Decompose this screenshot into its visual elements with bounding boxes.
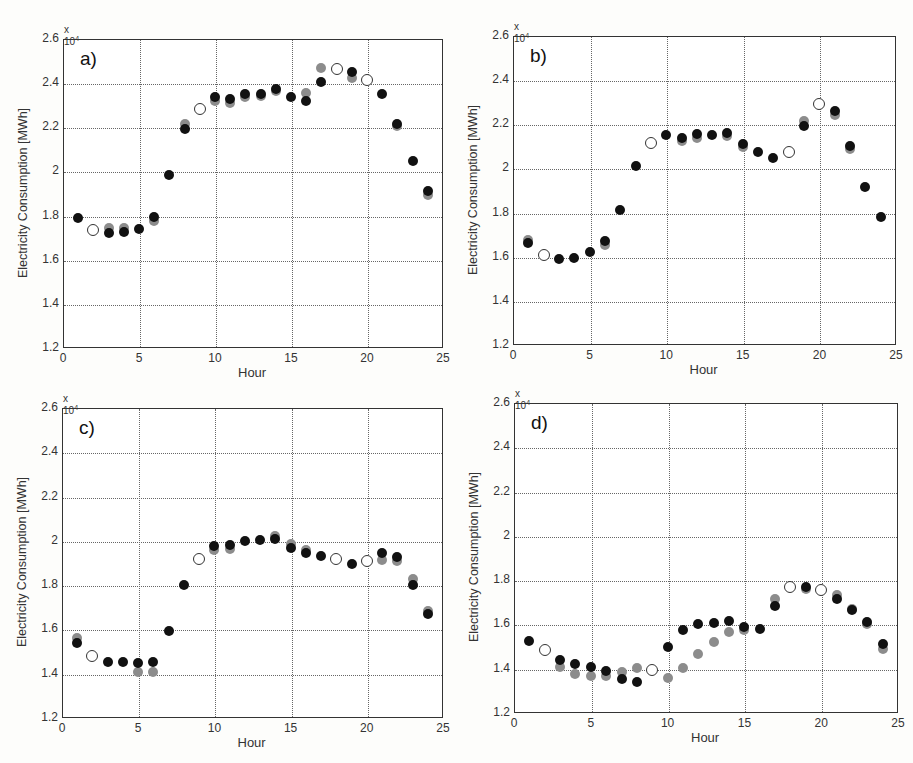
x-tick-label: 25 xyxy=(428,721,458,735)
y-axis-multiplier: x 104 xyxy=(63,393,78,416)
y-tick-label: 1.8 xyxy=(28,577,58,591)
data-point-black xyxy=(677,133,687,143)
gridline-vertical xyxy=(744,37,745,344)
gridline-horizontal xyxy=(64,305,442,306)
data-point-black xyxy=(72,638,82,648)
gridline-horizontal xyxy=(515,625,897,626)
data-point-black xyxy=(240,536,250,546)
data-point-gray xyxy=(678,663,688,673)
data-point-black xyxy=(523,238,533,248)
y-tick-label: 1.6 xyxy=(28,621,58,635)
data-point-black xyxy=(860,182,870,192)
data-point-black xyxy=(301,96,311,106)
data-point-open xyxy=(646,664,658,676)
data-point-black xyxy=(316,77,326,87)
data-point-black xyxy=(316,551,326,561)
gridline-horizontal xyxy=(514,302,895,303)
y-tick-label: 2.4 xyxy=(479,72,509,86)
data-point-black xyxy=(148,657,158,667)
data-point-gray xyxy=(663,673,673,683)
multiplier-exponent: 4 xyxy=(75,35,79,42)
data-point-open xyxy=(538,249,550,261)
data-point-black xyxy=(555,655,565,665)
data-point-black xyxy=(799,121,809,131)
data-point-open xyxy=(193,553,205,565)
x-axis-label: Hour xyxy=(238,365,266,380)
x-tick-label: 5 xyxy=(575,348,605,362)
data-point-black xyxy=(847,605,857,615)
data-point-open xyxy=(539,644,551,656)
y-tick-label: 1.4 xyxy=(479,293,509,307)
data-point-gray xyxy=(133,667,143,677)
data-point-black xyxy=(408,580,418,590)
gridline-vertical xyxy=(667,37,668,344)
data-point-gray xyxy=(316,63,326,73)
x-tick-label: 15 xyxy=(276,351,306,365)
data-point-black xyxy=(286,543,296,553)
data-point-black xyxy=(347,559,357,569)
data-point-open xyxy=(87,224,99,236)
y-tick-label: 2.2 xyxy=(480,484,510,498)
gridline-horizontal xyxy=(63,453,442,454)
gridline-horizontal xyxy=(514,81,895,82)
data-point-black xyxy=(377,548,387,558)
data-point-gray xyxy=(586,671,596,681)
gridline-horizontal xyxy=(515,493,897,494)
x-tick-label: 15 xyxy=(276,721,306,735)
x-tick-label: 25 xyxy=(881,348,911,362)
data-point-black xyxy=(271,84,281,94)
data-point-open xyxy=(813,98,825,110)
y-tick-label: 1.8 xyxy=(29,208,59,222)
x-tick-label: 15 xyxy=(728,348,758,362)
data-point-open xyxy=(331,63,343,75)
data-point-black xyxy=(286,92,296,102)
y-tick-label: 1.4 xyxy=(28,666,58,680)
x-tick-label: 25 xyxy=(883,716,913,730)
data-point-open xyxy=(645,137,657,149)
x-tick-label: 0 xyxy=(48,351,78,365)
y-axis-label: Electricity Consumption [MWh] xyxy=(466,95,480,285)
panel-label: a) xyxy=(80,48,97,70)
gridline-horizontal xyxy=(64,84,442,85)
y-axis-multiplier: x 104 xyxy=(514,21,529,44)
gridline-vertical xyxy=(822,404,823,712)
data-point-gray xyxy=(632,663,642,673)
x-tick-label: 25 xyxy=(428,351,458,365)
data-point-black xyxy=(255,535,265,545)
data-point-black xyxy=(585,247,595,257)
y-tick-label: 2.4 xyxy=(480,439,510,453)
y-tick-label: 1.8 xyxy=(479,205,509,219)
data-point-gray xyxy=(709,637,719,647)
x-tick-label: 20 xyxy=(352,351,382,365)
data-point-black xyxy=(663,642,673,652)
y-axis-label: Electricity Consumption [MWh] xyxy=(16,98,30,288)
y-tick-label: 1.6 xyxy=(479,249,509,263)
panel-label: c) xyxy=(79,417,95,439)
y-tick-label: 2 xyxy=(28,533,58,547)
gridline-horizontal xyxy=(63,675,442,676)
data-point-black xyxy=(103,657,113,667)
data-point-open xyxy=(783,146,795,158)
panel-label: d) xyxy=(531,412,548,434)
multiplier-exponent: 4 xyxy=(525,32,529,39)
data-point-black xyxy=(878,639,888,649)
gridline-vertical xyxy=(745,404,746,712)
data-point-black xyxy=(661,130,671,140)
y-tick-label: 2.6 xyxy=(479,28,509,42)
data-point-black xyxy=(755,624,765,634)
y-axis-label: Electricity Consumption [MWh] xyxy=(15,467,29,657)
y-tick-label: 1.4 xyxy=(480,661,510,675)
gridline-horizontal xyxy=(514,125,895,126)
y-tick-label: 1.6 xyxy=(480,616,510,630)
data-point-black xyxy=(830,106,840,116)
x-tick-label: 0 xyxy=(47,721,77,735)
x-tick-label: 10 xyxy=(199,721,229,735)
data-point-black xyxy=(164,626,174,636)
data-point-black xyxy=(586,662,596,672)
data-point-open xyxy=(361,74,373,86)
data-point-black xyxy=(149,212,159,222)
y-axis-multiplier: x 104 xyxy=(64,24,79,47)
gridline-horizontal xyxy=(514,169,895,170)
data-point-open xyxy=(815,584,827,596)
y-tick-label: 1.6 xyxy=(29,252,59,266)
